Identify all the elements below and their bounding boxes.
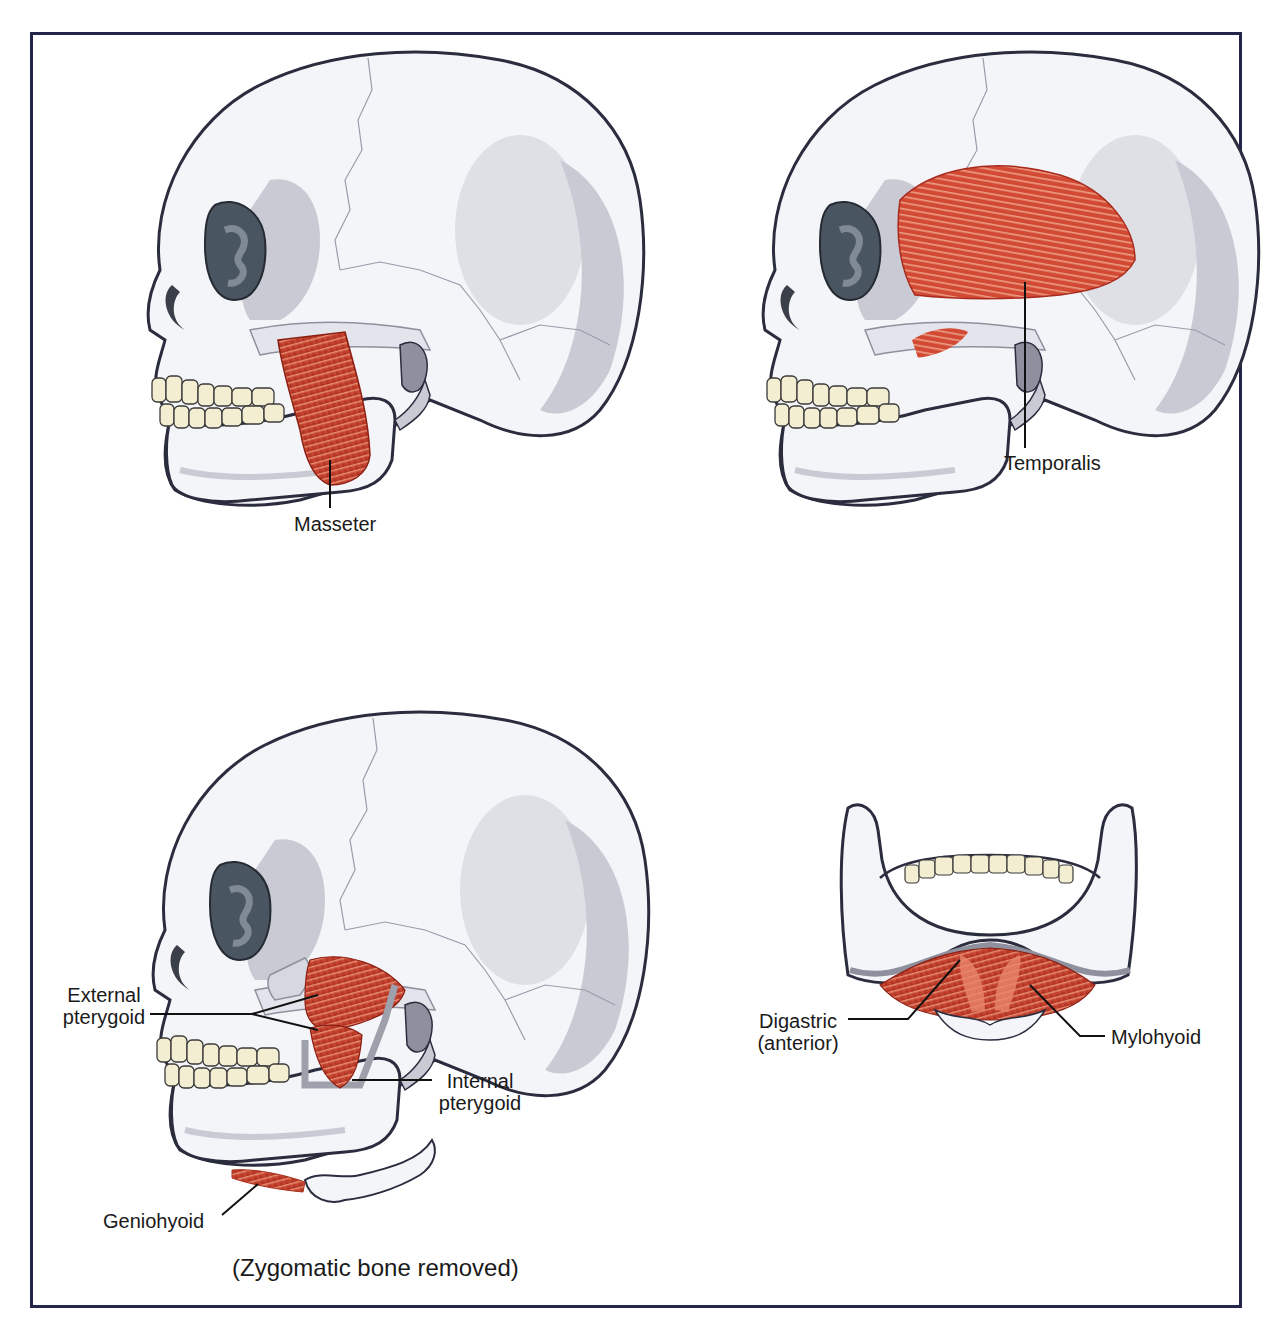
geniohyoid-muscle (232, 1170, 305, 1192)
label-digastric-line2: (anterior) (752, 1032, 844, 1054)
label-mylohyoid: Mylohyoid (1111, 1026, 1201, 1048)
skull-temporalis-panel (763, 52, 1259, 505)
label-temporalis: Temporalis (1004, 452, 1101, 474)
label-masseter: Masseter (294, 513, 376, 535)
mandible-inferior-panel (841, 805, 1136, 1040)
label-digastric-anterior: Digastric (anterior) (752, 1010, 844, 1054)
skull-masseter-panel (148, 52, 644, 505)
label-internal-pterygoid-line1: Internal (435, 1070, 525, 1092)
label-geniohyoid: Geniohyoid (103, 1210, 204, 1232)
label-internal-pterygoid: Internal pterygoid (435, 1070, 525, 1114)
skull-pterygoid-panel (153, 712, 649, 1202)
label-digastric-line1: Digastric (752, 1010, 844, 1032)
caption-zygomatic-removed: (Zygomatic bone removed) (232, 1254, 519, 1282)
label-internal-pterygoid-line2: pterygoid (435, 1092, 525, 1114)
anatomy-illustration (0, 0, 1266, 1334)
label-external-pterygoid-line2: pterygoid (59, 1006, 149, 1028)
label-external-pterygoid: External pterygoid (59, 984, 149, 1028)
label-external-pterygoid-line1: External (59, 984, 149, 1006)
